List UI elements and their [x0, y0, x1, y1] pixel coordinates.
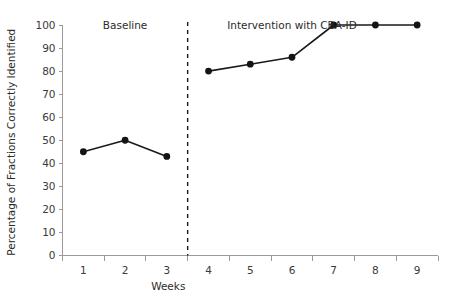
chart-canvas: 0102030405060708090100 123456789 Baselin… — [0, 0, 454, 298]
data-point-marker — [205, 68, 212, 75]
y-tick-label: 30 — [42, 180, 55, 192]
phase-labels-group: BaselineIntervention with CBA-ID — [103, 19, 357, 31]
phase-label: Baseline — [103, 19, 148, 31]
series-line-segment — [209, 25, 418, 71]
y-axis-title: Percentage of Fractions Correctly Identi… — [5, 29, 17, 256]
x-tick-label: 5 — [247, 264, 254, 276]
x-tick-label: 3 — [163, 264, 170, 276]
x-tick-label: 1 — [80, 264, 87, 276]
x-tick-label: 6 — [289, 264, 296, 276]
x-axis-title: Weeks — [151, 280, 185, 292]
y-tick-label: 10 — [42, 226, 55, 238]
y-tick-label: 20 — [42, 203, 55, 215]
data-point-marker — [372, 22, 379, 29]
y-tick-label: 60 — [42, 111, 55, 123]
single-case-design-chart: 0102030405060708090100 123456789 Baselin… — [0, 0, 454, 298]
axis-titles-group: WeeksPercentage of Fractions Correctly I… — [5, 29, 185, 292]
y-tick-label: 70 — [42, 88, 55, 100]
y-tick-label: 80 — [42, 65, 55, 77]
data-point-marker — [80, 148, 87, 155]
data-point-marker — [414, 22, 421, 29]
data-point-marker — [247, 61, 254, 68]
x-tick-label: 2 — [122, 264, 129, 276]
x-tick-label: 8 — [372, 264, 379, 276]
phase-label: Intervention with CBA-ID — [227, 19, 357, 31]
y-tick-label: 90 — [42, 42, 55, 54]
data-point-marker — [122, 137, 129, 144]
data-point-marker — [163, 153, 170, 160]
y-tick-label: 100 — [35, 19, 55, 31]
data-point-marker — [289, 54, 296, 61]
y-axis: 0102030405060708090100 — [35, 19, 62, 262]
y-tick-label: 50 — [42, 134, 55, 146]
x-tick-label: 4 — [205, 264, 212, 276]
x-axis: 123456789 — [63, 256, 439, 276]
series-1 — [80, 137, 170, 160]
data-series-group — [80, 22, 421, 160]
x-tick-label: 9 — [414, 264, 421, 276]
y-tick-label: 40 — [42, 157, 55, 169]
x-tick-label: 7 — [330, 264, 337, 276]
y-tick-label: 0 — [49, 249, 56, 261]
